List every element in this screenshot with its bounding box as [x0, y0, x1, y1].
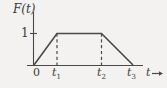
x-tick-label-t2: t2 [97, 67, 106, 81]
x-tick-label-t1: t1 [52, 67, 61, 81]
force-curve [34, 34, 133, 66]
x-tick-label-t2-sub: 2 [101, 73, 105, 81]
x-tick-label-t3-sub: 3 [131, 73, 135, 81]
origin-label: 0 [33, 67, 40, 78]
y-axis-label: F(t) [13, 3, 36, 15]
y-tick-label-1: 1 [21, 27, 29, 39]
x-tick-label-t1-sub: 1 [56, 73, 60, 81]
x-axis-label: t [146, 67, 150, 78]
chart-figure: F(t) 1 0 t1 t2 t3 t [0, 0, 167, 88]
x-tick-label-t3: t3 [127, 67, 136, 81]
right-arrow-icon [152, 70, 163, 77]
